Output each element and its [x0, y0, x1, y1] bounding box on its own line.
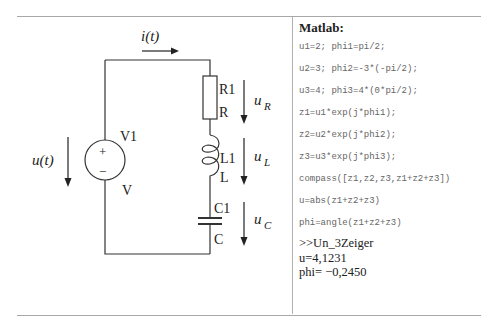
source-voltage-arrowhead-icon [65, 178, 72, 187]
resistor-voltage-label-base: u [254, 92, 262, 108]
bottom-wire [105, 180, 210, 254]
inductor-type: L [220, 170, 229, 185]
current-arrowhead-icon [171, 48, 179, 55]
inductor-voltage-label-sub: L [263, 156, 270, 168]
resistor-voltage-arrowhead-icon [241, 115, 248, 124]
capacitor-symbol [198, 218, 222, 224]
source-voltage-label: u(t) [32, 152, 54, 169]
capacitor-name: C1 [214, 201, 230, 216]
source-type: V [122, 183, 132, 198]
inductor-symbol [202, 135, 219, 189]
code-line: phi=angle(z1+z2+z3) [299, 216, 479, 238]
plus-sign: + [99, 144, 106, 159]
output-line-phase: phi= −0,2450 [299, 265, 479, 280]
code-line: z2=u2*exp(j*phi2); [299, 128, 479, 150]
rlc-circuit-diagram: + − i(t) u(t) V1 V R1 R u R L1 L u L C1 … [0, 0, 292, 335]
top-wire [105, 60, 210, 76]
resistor-voltage-label-sub: R [263, 100, 271, 112]
matlab-output: >>Un_3Zeiger u=4,1231 phi= −0,2450 [299, 236, 479, 280]
source-name: V1 [120, 129, 137, 144]
inductor-name: L1 [220, 151, 236, 166]
output-line-magnitude: u=4,1231 [299, 251, 479, 266]
capacitor-type: C [214, 232, 223, 247]
code-line: z3=u3*exp(j*phi3); [299, 150, 479, 172]
current-label: i(t) [141, 28, 159, 45]
code-line: u3=4; phi3=4*(0*pi/2); [299, 84, 479, 106]
capacitor-voltage-label-base: u [254, 211, 262, 227]
capacitor-voltage-arrowhead-icon [241, 237, 248, 246]
matlab-code-panel: Matlab: u1=2; phi1=pi/2; u2=3; phi2=-3*(… [299, 20, 479, 280]
code-line: z1=u1*exp(j*phi1); [299, 106, 479, 128]
resistor-symbol [203, 76, 217, 119]
code-line: u=abs(z1+z2+z3) [299, 194, 479, 216]
capacitor-voltage-label-sub: C [264, 219, 272, 231]
code-line: compass([z1,z2,z3,z1+z2+z3]) [299, 172, 479, 194]
resistor-type: R [219, 105, 229, 120]
matlab-title: Matlab: [299, 20, 479, 36]
inductor-voltage-label-base: u [254, 148, 262, 164]
code-line: u2=3; phi2=-3*(-pi/2); [299, 62, 479, 84]
minus-sign: − [99, 164, 106, 179]
resistor-name: R1 [219, 82, 235, 97]
output-line-command: >>Un_3Zeiger [299, 236, 479, 251]
code-line: u1=2; phi1=pi/2; [299, 40, 479, 62]
inductor-voltage-arrowhead-icon [241, 176, 248, 185]
column-divider [292, 17, 293, 314]
